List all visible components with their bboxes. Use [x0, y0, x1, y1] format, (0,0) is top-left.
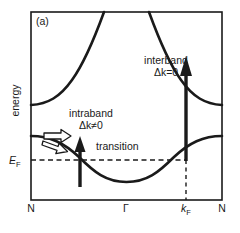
kf-subscript: F: [186, 208, 191, 217]
fermi-energy-label: EF: [9, 155, 21, 169]
annotation-interband-delta-k: Δk=0: [129, 67, 203, 78]
band-structure-figure: (a) energy EF N Γ kF N interband Δk=0 in…: [0, 0, 240, 233]
annotation-intraband-delta-k: Δk≠0: [54, 120, 128, 131]
annotation-intraband: intraband: [54, 108, 128, 119]
x-tick-label-kf: kF: [173, 203, 199, 217]
annotation-interband: interband: [129, 55, 203, 66]
x-tick-label-n-right: N: [209, 203, 235, 214]
y-axis-label: energy: [10, 71, 21, 131]
plot-frame: [31, 12, 222, 200]
fermi-energy-symbol: E: [9, 154, 16, 166]
x-tick-label-gamma: Γ: [113, 203, 139, 214]
fermi-energy-subscript: F: [16, 160, 21, 169]
annotation-transition: transition: [96, 141, 139, 152]
panel-label: (a): [36, 16, 49, 27]
x-tick-label-n-left: N: [18, 203, 44, 214]
